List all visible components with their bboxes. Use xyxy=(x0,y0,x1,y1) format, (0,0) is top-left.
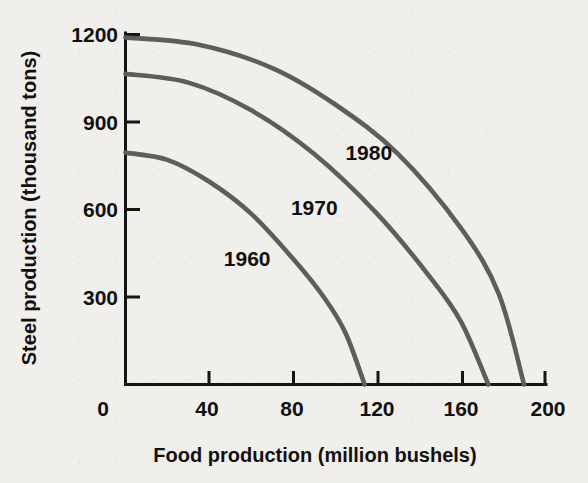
x-tick-label-40: 40 xyxy=(195,397,218,420)
x-axis-title: Food production (million bushels) xyxy=(153,444,476,466)
chart-canvas: 1200 900 600 300 0 40 80 120 160 200 196… xyxy=(0,0,588,483)
x-tick-label-200: 200 xyxy=(530,397,565,420)
x-tick-marks xyxy=(209,371,545,385)
series-label-1980: 1980 xyxy=(345,141,392,164)
y-axis-title: Steel production (thousand tons) xyxy=(18,51,40,365)
y-tick-label-1200: 1200 xyxy=(71,23,118,46)
y-tick-labels: 1200 900 600 300 xyxy=(71,23,118,309)
y-tick-label-900: 900 xyxy=(83,111,118,134)
x-tick-labels: 0 40 80 120 160 200 xyxy=(97,397,565,420)
ppf-chart: 1200 900 600 300 0 40 80 120 160 200 196… xyxy=(0,0,588,483)
series-label-1960: 1960 xyxy=(224,247,271,270)
y-tick-label-300: 300 xyxy=(83,286,118,309)
series-label-1970: 1970 xyxy=(291,196,338,219)
curve-1970 xyxy=(126,74,489,385)
x-tick-label-160: 160 xyxy=(443,397,478,420)
y-tick-label-600: 600 xyxy=(83,198,118,221)
x-tick-label-0: 0 xyxy=(97,397,109,420)
x-tick-label-80: 80 xyxy=(280,397,303,420)
x-tick-label-120: 120 xyxy=(359,397,394,420)
